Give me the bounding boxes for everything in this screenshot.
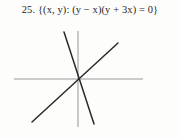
line-y-equals-negative-3x	[64, 32, 94, 124]
line-y-equals-x	[32, 43, 118, 122]
set-builder-expression: {(x, y): (y − x)(y + 3x) = 0}	[38, 4, 158, 15]
graph-figure	[0, 18, 180, 138]
coordinate-plane-svg	[0, 18, 180, 138]
problem-statement: 25. {(x, y): (y − x)(y + 3x) = 0}	[0, 3, 180, 17]
problem-number: 25.	[22, 4, 35, 15]
exercise-figure-block: 25. {(x, y): (y − x)(y + 3x) = 0}	[0, 0, 180, 138]
